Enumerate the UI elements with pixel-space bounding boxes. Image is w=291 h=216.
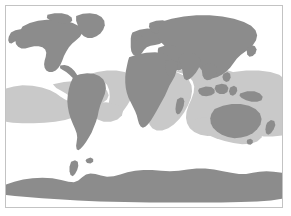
map-frame xyxy=(5,5,283,208)
world-distribution-map xyxy=(6,6,282,207)
figure-root: Land Distribution range xyxy=(0,0,291,216)
